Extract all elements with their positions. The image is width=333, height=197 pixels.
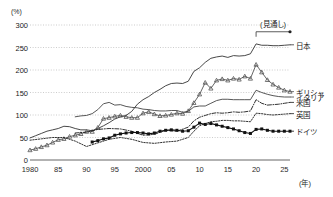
legend-item-5: ドイツ xyxy=(296,126,317,137)
series-marker xyxy=(96,139,99,142)
y-axis-tick-label: 50 xyxy=(6,133,28,142)
series-marker xyxy=(266,129,269,132)
y-axis-tick-label: 150 xyxy=(6,88,28,97)
series-marker xyxy=(159,130,162,133)
series-marker xyxy=(175,129,178,132)
series-marker xyxy=(209,122,212,125)
series-marker xyxy=(125,132,128,135)
x-axis-tick-label: 85 xyxy=(54,165,62,174)
series-marker xyxy=(260,127,263,130)
y-axis-tick-label: 200 xyxy=(6,66,28,75)
series-marker xyxy=(113,134,116,137)
series-marker xyxy=(170,128,173,131)
legend-item-3: 米国 xyxy=(296,97,310,108)
series-marker xyxy=(204,123,207,126)
series-marker xyxy=(238,129,241,132)
legend-item-0: 日本 xyxy=(296,39,310,50)
series-marker xyxy=(147,132,150,135)
series-marker xyxy=(108,136,111,139)
x-axis-tick-label: 2000 xyxy=(135,165,152,174)
legend-item-4: 英国 xyxy=(296,108,310,119)
series-marker xyxy=(243,131,246,134)
series-marker xyxy=(283,130,286,133)
x-axis-tick-label: 05 xyxy=(167,165,175,174)
series-marker xyxy=(153,132,156,135)
series-marker xyxy=(198,122,201,125)
x-axis-tick-label: 10 xyxy=(195,165,203,174)
series-marker xyxy=(142,132,145,135)
series-marker xyxy=(91,141,94,144)
series-marker xyxy=(277,130,280,133)
series-marker xyxy=(232,127,235,130)
forecast-annotation-label: (見通し) xyxy=(260,18,286,29)
series-marker xyxy=(249,132,252,135)
series-marker xyxy=(187,129,190,132)
series-marker xyxy=(136,131,139,134)
series-marker xyxy=(102,137,105,140)
x-axis-tick-label: 20 xyxy=(252,165,260,174)
series-marker xyxy=(215,123,218,126)
series-marker xyxy=(192,126,195,129)
y-axis-tick-label: 300 xyxy=(6,21,28,30)
series-line-0 xyxy=(30,44,290,138)
series-marker xyxy=(119,132,122,135)
series-marker xyxy=(255,128,258,131)
series-marker xyxy=(221,125,224,128)
x-axis-tick-label: 25 xyxy=(280,165,288,174)
series-line-2 xyxy=(75,90,290,117)
series-marker xyxy=(130,131,133,134)
series-marker xyxy=(164,129,167,132)
x-axis-tick-label: 15 xyxy=(224,165,232,174)
chart-container: (%) (年) 050100150200250300 1980859095200… xyxy=(0,0,333,197)
x-axis-tick-label: 95 xyxy=(111,165,119,174)
x-axis-tick-label: 1980 xyxy=(22,165,39,174)
y-axis-tick-label: 0 xyxy=(6,156,28,165)
series-marker xyxy=(226,126,229,129)
x-axis-tick-label: 90 xyxy=(82,165,90,174)
series-marker xyxy=(181,130,184,133)
y-axis-tick-label: 100 xyxy=(6,111,28,120)
y-axis-tick-label: 250 xyxy=(6,43,28,52)
series-marker xyxy=(272,130,275,133)
